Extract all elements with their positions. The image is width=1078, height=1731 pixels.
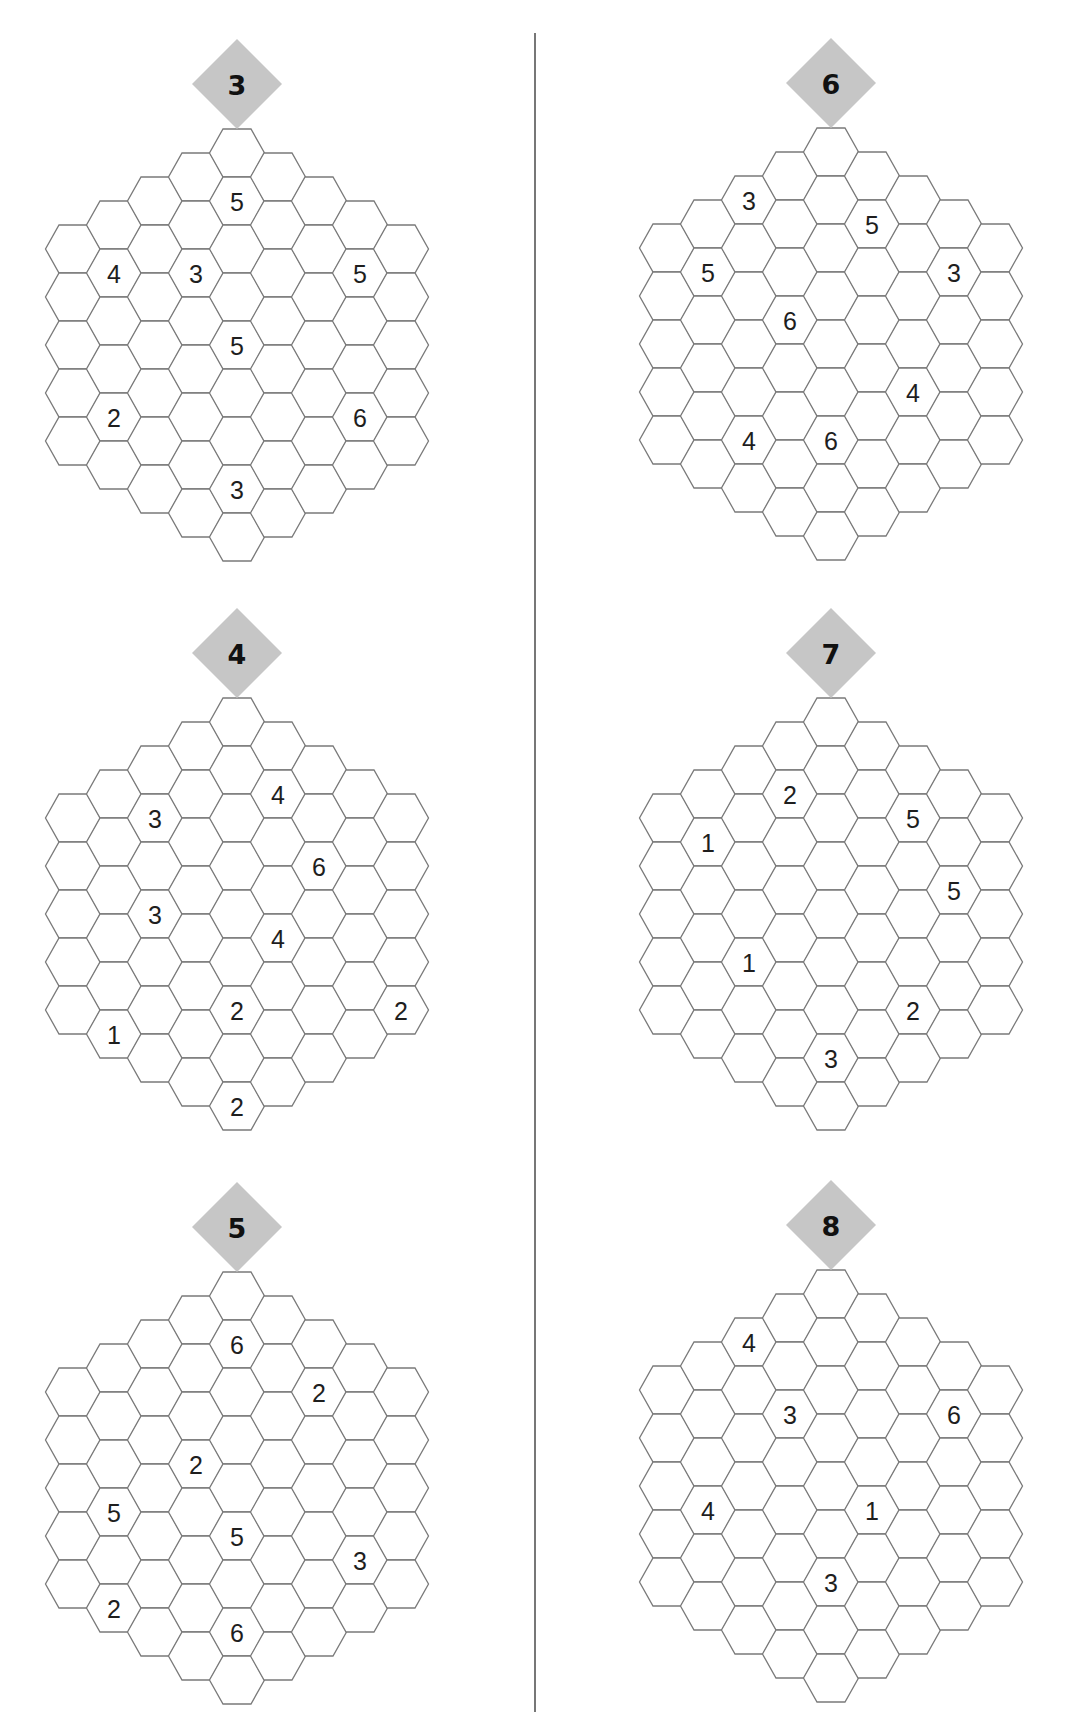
clue-number: 6 bbox=[230, 1331, 244, 1359]
hex-grid: 133224462 bbox=[46, 698, 429, 1130]
clue-number: 3 bbox=[353, 1547, 367, 1575]
puzzle-4: 1332244624 bbox=[46, 608, 429, 1130]
clue-number: 2 bbox=[189, 1451, 203, 1479]
puzzle-number-badge: 7 bbox=[786, 608, 876, 698]
clue-number: 4 bbox=[271, 925, 285, 953]
hex-grid: 42355356 bbox=[46, 129, 429, 561]
clue-number: 6 bbox=[947, 1401, 961, 1429]
clue-number: 2 bbox=[230, 997, 244, 1025]
clue-number: 4 bbox=[701, 1497, 715, 1525]
hex-grid: 53466543 bbox=[640, 128, 1023, 560]
puzzle-number: 8 bbox=[822, 1211, 841, 1242]
clue-number: 1 bbox=[865, 1497, 879, 1525]
puzzle-6: 534665436 bbox=[640, 38, 1023, 560]
clue-number: 2 bbox=[394, 997, 408, 1025]
puzzle-number-badge: 3 bbox=[192, 39, 282, 129]
clue-number: 3 bbox=[824, 1045, 838, 1073]
puzzle-number: 5 bbox=[228, 1213, 247, 1244]
clue-number: 3 bbox=[148, 901, 162, 929]
clue-number: 6 bbox=[312, 853, 326, 881]
clue-number: 5 bbox=[906, 805, 920, 833]
puzzle-number-badge: 4 bbox=[192, 608, 282, 698]
clue-number: 4 bbox=[742, 427, 756, 455]
clue-number: 4 bbox=[906, 379, 920, 407]
puzzle-5: 522656235 bbox=[46, 1182, 429, 1704]
puzzle-number-badge: 5 bbox=[192, 1182, 282, 1272]
puzzle-layer: 4235535631332244624522656235534665436112… bbox=[46, 38, 1023, 1704]
clue-number: 5 bbox=[230, 188, 244, 216]
puzzle-number-badge: 8 bbox=[786, 1180, 876, 1270]
clue-number: 3 bbox=[230, 476, 244, 504]
clue-number: 2 bbox=[783, 781, 797, 809]
clue-number: 2 bbox=[107, 404, 121, 432]
clue-number: 4 bbox=[107, 260, 121, 288]
clue-number: 5 bbox=[353, 260, 367, 288]
puzzle-number: 6 bbox=[822, 69, 841, 100]
clue-number: 3 bbox=[783, 1401, 797, 1429]
puzzle-7: 11235257 bbox=[640, 608, 1023, 1130]
puzzle-8: 4433168 bbox=[640, 1180, 1023, 1702]
clue-number: 5 bbox=[230, 1523, 244, 1551]
puzzle-3: 423553563 bbox=[46, 39, 429, 561]
clue-number: 6 bbox=[230, 1619, 244, 1647]
clue-number: 2 bbox=[107, 1595, 121, 1623]
clue-number: 3 bbox=[148, 805, 162, 833]
clue-number: 4 bbox=[742, 1329, 756, 1357]
puzzle-number-badge: 6 bbox=[786, 38, 876, 128]
puzzle-number: 4 bbox=[228, 639, 247, 670]
hex-grid: 1123525 bbox=[640, 698, 1023, 1130]
clue-number: 5 bbox=[701, 259, 715, 287]
hex-grid: 443316 bbox=[640, 1270, 1023, 1702]
clue-number: 1 bbox=[742, 949, 756, 977]
clue-number: 5 bbox=[107, 1499, 121, 1527]
clue-number: 3 bbox=[189, 260, 203, 288]
puzzle-sheet: 4235535631332244624522656235534665436112… bbox=[0, 0, 1078, 1731]
hex-grid: 52265623 bbox=[46, 1272, 429, 1704]
clue-number: 6 bbox=[824, 427, 838, 455]
clue-number: 2 bbox=[312, 1379, 326, 1407]
puzzle-number: 3 bbox=[228, 70, 247, 101]
clue-number: 5 bbox=[947, 877, 961, 905]
clue-number: 3 bbox=[742, 187, 756, 215]
clue-number: 5 bbox=[865, 211, 879, 239]
clue-number: 3 bbox=[824, 1569, 838, 1597]
clue-number: 5 bbox=[230, 332, 244, 360]
puzzle-number: 7 bbox=[822, 639, 841, 670]
clue-number: 6 bbox=[783, 307, 797, 335]
clue-number: 1 bbox=[107, 1021, 121, 1049]
clue-number: 1 bbox=[701, 829, 715, 857]
clue-number: 2 bbox=[230, 1093, 244, 1121]
clue-number: 4 bbox=[271, 781, 285, 809]
clue-number: 6 bbox=[353, 404, 367, 432]
clue-number: 2 bbox=[906, 997, 920, 1025]
clue-number: 3 bbox=[947, 259, 961, 287]
